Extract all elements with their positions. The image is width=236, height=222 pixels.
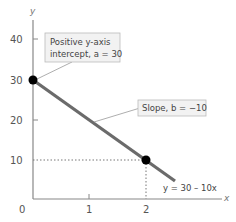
x-tick-label-2: 2 (143, 204, 149, 215)
slope-annotation: Slope, b = −10 (142, 103, 207, 113)
slope-leader (94, 108, 140, 122)
x-tick-label-1: 1 (86, 204, 92, 215)
y-tick-label-40: 40 (10, 34, 23, 45)
intercept-point (29, 76, 38, 85)
data-point-2-10 (142, 156, 151, 165)
intercept-leader (35, 62, 72, 80)
origin-label: 0 (19, 204, 25, 215)
y-tick-label-30: 30 (10, 75, 23, 86)
chart-canvas: Positive y-axis intercept, a = 30 Slope,… (0, 0, 236, 222)
x-axis-label: x (223, 193, 230, 203)
series-line (33, 80, 175, 181)
y-tick-label-20: 20 (10, 115, 23, 126)
equation-label: y = 30 – 10x (163, 183, 217, 193)
y-axis-label: y (29, 6, 36, 16)
intercept-annotation-line2: intercept, a = 30 (50, 49, 122, 59)
y-tick-label-10: 10 (10, 155, 23, 166)
intercept-annotation-line1: Positive y-axis (50, 37, 111, 47)
